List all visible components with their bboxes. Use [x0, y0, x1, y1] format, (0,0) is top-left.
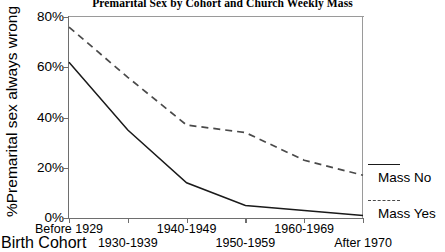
x-tick-label: 1960-1969 — [274, 222, 334, 236]
x-tick-label: 1930-1939 — [98, 236, 158, 250]
y-tick-label: 60% — [4, 59, 64, 74]
chart-legend: Mass NoMass Yes — [368, 155, 445, 227]
x-tick-mark — [128, 218, 129, 223]
legend-label: Mass Yes — [378, 206, 436, 221]
x-tick-mark — [245, 218, 246, 223]
chart-title: Premarital Sex by Cohort and Church Week… — [0, 0, 445, 9]
x-tick-label: 1940-1949 — [157, 222, 217, 236]
x-tick-label: After 1970 — [334, 236, 392, 250]
legend-label: Mass No — [378, 170, 431, 185]
plot-border-right — [362, 16, 363, 219]
y-tick-label: 40% — [4, 110, 64, 125]
x-axis-line — [68, 218, 364, 219]
x-tick-mark — [363, 218, 364, 223]
legend-item[interactable]: Mass Yes — [368, 191, 445, 227]
x-axis-title: Birth Cohort — [1, 234, 86, 252]
y-tick-mark — [63, 118, 69, 119]
y-tick-mark — [63, 17, 69, 18]
legend-swatch-dashed — [368, 200, 400, 201]
legend-swatch-solid — [368, 164, 400, 165]
y-tick-label: 80% — [4, 9, 64, 24]
y-tick-mark — [63, 67, 69, 68]
legend-item[interactable]: Mass No — [368, 155, 445, 191]
y-tick-mark — [63, 168, 69, 169]
y-tick-label: 20% — [4, 160, 64, 175]
plot-border-top — [68, 16, 364, 17]
x-tick-label: 1950-1959 — [216, 236, 276, 250]
series-line-mass-yes — [69, 27, 363, 175]
chart-container: Premarital Sex by Cohort and Church Week… — [0, 0, 445, 252]
series-line-mass-no — [69, 62, 363, 215]
